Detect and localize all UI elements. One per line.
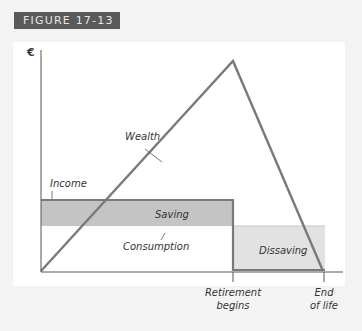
- end-of-life-label-line1: End: [314, 287, 334, 298]
- retirement-label-line1: Retirement: [205, 287, 262, 298]
- end-of-life-label-line2: of life: [310, 300, 338, 311]
- retirement-label-line2: begins: [216, 300, 249, 311]
- tick-labels: Retirement begins End of life: [13, 42, 345, 331]
- figure-tag: FIGURE 17-13: [14, 12, 120, 29]
